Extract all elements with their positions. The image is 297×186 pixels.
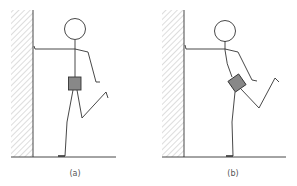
panel-label-a: (a): [60, 169, 90, 178]
panel-b: [162, 10, 286, 157]
pelvis-box: [228, 74, 246, 92]
wall-hatching: [11, 10, 33, 157]
raised-leg: [241, 78, 279, 108]
arm-to-wall: [34, 46, 75, 49]
standing-leg: [65, 90, 73, 156]
head: [65, 19, 86, 40]
head: [215, 21, 236, 42]
wall-hatching: [162, 10, 184, 157]
standing-leg: [232, 92, 235, 156]
torso: [225, 41, 232, 77]
pelvis-box: [69, 77, 82, 90]
panel-a: [11, 10, 116, 157]
free-arm: [225, 49, 257, 81]
raised-leg: [77, 90, 108, 118]
arm-to-wall: [185, 45, 225, 49]
panel-label-b: (b): [218, 169, 248, 178]
figure-canvas: [0, 0, 297, 186]
